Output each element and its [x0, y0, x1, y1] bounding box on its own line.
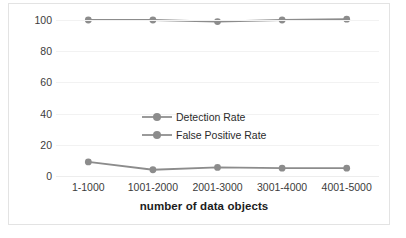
data-point-marker	[85, 159, 92, 166]
gridline	[56, 51, 379, 52]
y-axis-tick-label: 40	[18, 109, 52, 119]
x-axis-tick-label: 3001-4000	[250, 180, 315, 196]
x-axis-tick-label: 2001-3000	[185, 180, 250, 196]
y-axis: 100806040200	[14, 20, 52, 176]
plot-area	[56, 20, 379, 176]
x-axis-tick-label: 1001-2000	[121, 180, 186, 196]
gridline	[56, 20, 379, 21]
legend-item-detection-rate: Detection Rate	[142, 108, 292, 126]
chart-legend: Detection Rate False Positive Rate	[142, 108, 292, 144]
legend-marker-icon	[142, 112, 172, 122]
x-axis-title: number of data objects	[17, 200, 391, 212]
y-axis-tick-label: 20	[18, 140, 52, 150]
y-axis-tick-label: 80	[18, 46, 52, 56]
series-layer	[56, 20, 379, 176]
data-point-marker	[214, 164, 221, 171]
legend-marker-icon	[142, 130, 172, 140]
gridline	[56, 82, 379, 83]
data-point-marker	[279, 165, 286, 172]
legend-item-false-positive-rate: False Positive Rate	[142, 126, 292, 144]
legend-label: False Positive Rate	[176, 129, 266, 141]
y-axis-tick-label: 60	[18, 77, 52, 87]
x-axis-tick-label: 1-1000	[56, 180, 121, 196]
legend-label: Detection Rate	[176, 111, 245, 123]
chart-container: 100806040200 1-10001001-20002001-3000300…	[8, 3, 390, 225]
data-point-marker	[150, 166, 157, 173]
y-axis-tick-label: 0	[18, 171, 52, 181]
y-axis-tick-label: 100	[18, 15, 52, 25]
x-axis-line	[56, 176, 379, 177]
data-point-marker	[343, 165, 350, 172]
gridline	[56, 145, 379, 146]
x-axis-tick-label: 4001-5000	[314, 180, 379, 196]
x-axis-tick-labels: 1-10001001-20002001-30003001-40004001-50…	[56, 180, 379, 196]
